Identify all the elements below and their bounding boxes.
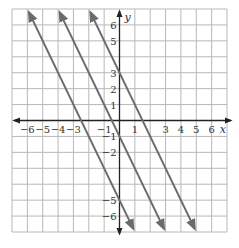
x-tick-label: 1 bbox=[132, 124, 138, 135]
x-tick-label: −4 bbox=[51, 124, 66, 135]
x-tick-label: −3 bbox=[66, 124, 81, 135]
x-tick-label: 3 bbox=[162, 124, 168, 135]
coordinate-graph: −6−5−4−3−11345665321−1−2−5−6xy bbox=[0, 0, 239, 248]
x-tick-label: 6 bbox=[208, 124, 214, 135]
y-tick-label: 5 bbox=[110, 36, 116, 47]
x-tick-label: −5 bbox=[35, 124, 50, 135]
x-axis-label: x bbox=[220, 123, 227, 136]
y-tick-label: −6 bbox=[102, 211, 117, 222]
y-tick-label: 2 bbox=[110, 84, 116, 95]
x-tick-label: 5 bbox=[193, 124, 199, 135]
y-tick-label: 1 bbox=[110, 100, 116, 111]
y-tick-label: −2 bbox=[102, 147, 117, 158]
x-tick-label: 4 bbox=[178, 124, 184, 135]
y-axis-label: y bbox=[124, 11, 132, 24]
y-tick-label: 6 bbox=[110, 20, 116, 31]
y-tick-label: −1 bbox=[102, 131, 117, 142]
x-tick-label: −6 bbox=[20, 124, 35, 135]
tick-labels: −6−5−4−3−11345665321−1−2−5−6xy bbox=[20, 11, 227, 222]
y-tick-label: −5 bbox=[102, 195, 117, 206]
y-tick-label: 3 bbox=[110, 68, 116, 79]
